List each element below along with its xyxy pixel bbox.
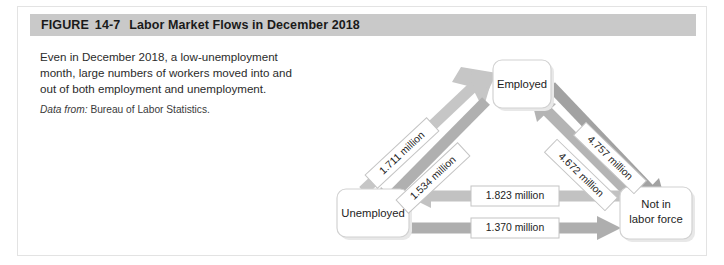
- node-unemployed-label: Unemployed: [341, 207, 404, 219]
- figure-card: FIGURE14-7Labor Market Flows in December…: [17, 6, 707, 256]
- source-value: Bureau of Labor Statistics.: [90, 104, 209, 115]
- node-not-in-labor-force: Not in labor force: [620, 187, 695, 242]
- labor-market-flow-diagram: Employed Unemployed Not in labor force 1…: [323, 41, 703, 251]
- node-employed-label: Employed: [497, 78, 547, 90]
- caption-body: Even in December 2018, a low-unemploymen…: [40, 49, 308, 98]
- figure-number: 14-7: [95, 18, 120, 32]
- svg-text:1.823 million: 1.823 million: [486, 190, 545, 201]
- figure-header-bar: FIGURE14-7Labor Market Flows in December…: [30, 14, 696, 36]
- value-nilf-to-unemployed: 1.823 million: [471, 186, 559, 206]
- svg-text:1.370 million: 1.370 million: [486, 222, 545, 233]
- node-nilf-label-line1: Not in: [641, 198, 671, 210]
- source-label: Data from:: [40, 104, 88, 115]
- caption-source: Data from: Bureau of Labor Statistics.: [40, 103, 308, 116]
- node-nilf-label-line2: labor force: [629, 213, 682, 225]
- value-unemployed-to-nilf: 1.370 million: [471, 218, 559, 238]
- figure-title: Labor Market Flows in December 2018: [129, 18, 360, 32]
- figure-header-text: FIGURE14-7Labor Market Flows in December…: [30, 18, 360, 32]
- caption-block: Even in December 2018, a low-unemploymen…: [40, 49, 308, 116]
- node-employed: Employed: [493, 60, 554, 111]
- figure-label: FIGURE: [41, 18, 89, 32]
